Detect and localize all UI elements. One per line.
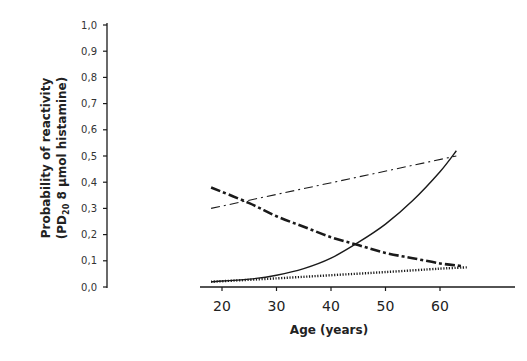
y-axis-title-line1: Probability of reactivity: [39, 78, 53, 239]
x-axis-title: Age (years): [290, 323, 368, 337]
x-tick-label: 30: [268, 298, 286, 314]
y-tick-label: 0,8: [81, 72, 97, 83]
x-axis: 2030405060: [200, 287, 515, 314]
y-tick-label: 0,5: [81, 151, 97, 162]
series-group: [211, 151, 467, 282]
series-dashdot-thin-line: [211, 156, 456, 208]
x-tick-label: 50: [377, 298, 395, 314]
y-tick-label: 0,3: [81, 203, 97, 214]
y-tick-label: 1,0: [81, 20, 97, 31]
y-axis-title-subscript: 20: [62, 203, 71, 215]
y-tick-label: 0,9: [81, 46, 97, 57]
x-tick-label: 20: [213, 298, 231, 314]
series-solid-line: [211, 151, 456, 282]
chart: 0,00,10,20,30,40,50,60,70,80,91,0 203040…: [0, 0, 527, 361]
y-tick-label: 0,7: [81, 98, 97, 109]
x-tick-label: 60: [431, 298, 449, 314]
y-axis-title-suffix: 8 μmol histamine): [55, 77, 69, 204]
y-tick-label: 0,4: [81, 177, 97, 188]
y-tick-label: 0,0: [81, 282, 97, 293]
x-tick-label: 40: [322, 298, 340, 314]
y-axis-title-prefix: (PD: [55, 215, 69, 239]
series-dashdot-thick-line: [211, 187, 462, 266]
y-axis: 0,00,10,20,30,40,50,60,70,80,91,0: [81, 20, 107, 293]
y-axis-title-line2: (PD20 8 μmol histamine): [55, 77, 71, 239]
y-tick-label: 0,6: [81, 124, 97, 135]
y-tick-label: 0,1: [81, 255, 97, 266]
y-tick-label: 0,2: [81, 229, 97, 240]
